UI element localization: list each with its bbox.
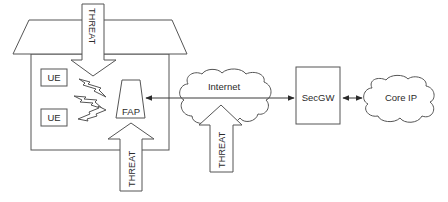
secgw-gateway: SecGW xyxy=(296,67,340,124)
threat-label-fap: THREAT xyxy=(127,150,137,187)
fap-label: FAP xyxy=(122,106,140,117)
core-ip-label: Core IP xyxy=(385,92,417,103)
threat-label-internet: THREAT xyxy=(217,131,227,168)
threat-label-top: THREAT xyxy=(87,8,97,45)
ue-label-1: UE xyxy=(47,72,60,83)
ue-label-2: UE xyxy=(47,112,60,123)
secgw-label: SecGW xyxy=(302,92,335,103)
core-ip-cloud: Core IP xyxy=(364,75,434,122)
ue-device-2: UE xyxy=(41,109,67,126)
internet-label: Internet xyxy=(208,81,241,92)
ue-device-1: UE xyxy=(41,69,67,86)
diagram-canvas: UE UE FAP Internet SecGW Core IP THREAT xyxy=(0,0,448,202)
